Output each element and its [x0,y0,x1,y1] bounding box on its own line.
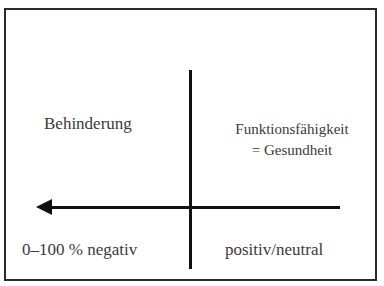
label-behinderung: Behinderung [44,115,132,132]
horizontal-axis-line [46,206,340,209]
label-funktionsfaehigkeit-line1: Funktionsfähigkeit [214,119,370,140]
label-positiv-neutral: positiv/neutral [225,241,323,258]
arrow-left-icon [36,199,52,215]
vertical-divider-line [189,70,192,269]
label-negativ: 0–100 % negativ [22,241,137,258]
label-funktionsfaehigkeit: Funktionsfähigkeit = Gesundheit [214,119,370,161]
label-gesundheit-line2: = Gesundheit [214,140,370,161]
